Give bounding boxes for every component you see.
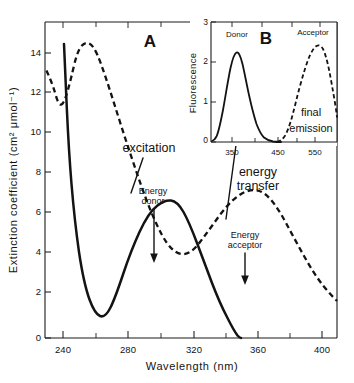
panel-b-y-axis-title: Fluorescence	[187, 53, 198, 114]
inset-y-tick-label-0: 0	[203, 135, 208, 145]
y-tick-label-12: 12	[30, 86, 41, 97]
x-tick-label-280: 280	[120, 344, 136, 355]
y-tick-label-6: 6	[36, 206, 41, 217]
annotation-energy-acceptor-line2: acceptor	[228, 240, 263, 250]
annotation-energy-acceptor-line1: Energy	[231, 230, 260, 240]
annotation-final-emission-line2: emission	[289, 122, 332, 134]
inset-y-tick-label-1: 1	[203, 96, 208, 106]
x-tick-label-400: 400	[314, 344, 330, 355]
inset-x-tick-label-350: 350	[225, 148, 239, 157]
inset-y-tick-label-3: 3	[203, 17, 208, 27]
panel-b-x-tick-labels: 350 450 550	[225, 148, 322, 157]
annotation-final-emission-line1: final	[301, 106, 321, 118]
annotation-excitation: excitation	[123, 141, 176, 155]
y-tick-label-10: 10	[30, 126, 41, 137]
energy-transfer-figure: 14 12 10 8 6 4 2 0 24	[0, 0, 354, 383]
annotation-energy-transfer-line1: energy	[239, 165, 278, 179]
figure-root: 14 12 10 8 6 4 2 0 24	[0, 0, 354, 383]
x-tick-label-360: 360	[250, 344, 266, 355]
panel-a-x-axis-title: Wavelength (nm)	[146, 360, 238, 372]
y-tick-label-8: 8	[36, 166, 41, 177]
y-tick-label-4: 4	[36, 246, 41, 257]
annotation-energy-donor-line1: Energy	[139, 186, 168, 196]
energy-donor-arrow-head	[150, 254, 158, 264]
panel-a-y-tick-labels: 14 12 10 8 6 4 2 0	[30, 47, 41, 343]
energy-acceptor-arrow-head	[241, 276, 249, 286]
x-tick-label-240: 240	[55, 344, 71, 355]
x-tick-label-320: 320	[186, 344, 202, 355]
annotation-energy-donor-line2: donor	[141, 196, 164, 206]
panel-a-y-ticks	[45, 53, 51, 338]
annotation-acceptor: Acceptor	[297, 28, 329, 37]
inset-y-tick-label-2: 2	[203, 56, 208, 66]
annotation-energy-transfer-line2: transfer	[237, 179, 279, 193]
panel-a-x-tick-labels: 240 280 320 360 400	[55, 344, 330, 355]
y-tick-label-14: 14	[30, 47, 41, 58]
y-tick-label-0: 0	[36, 332, 41, 343]
annotation-donor: Donor	[226, 30, 248, 39]
panel-b-letter: B	[260, 29, 272, 48]
panel-a-y-axis-title: Extinction coefficient (cm² μmol⁻¹)	[7, 87, 19, 274]
panel-a-letter: A	[144, 32, 156, 51]
inset-x-tick-label-450: 450	[271, 148, 285, 157]
y-tick-label-2: 2	[36, 286, 41, 297]
inset-x-tick-label-550: 550	[308, 148, 322, 157]
